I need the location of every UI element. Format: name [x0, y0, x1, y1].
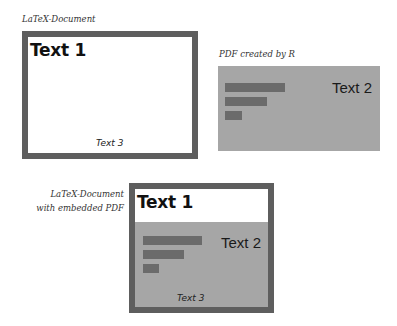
text-3-label: Text 3	[177, 294, 204, 303]
text-1-label: Text 1	[30, 42, 86, 59]
text-1-label: Text 1	[137, 194, 193, 211]
text-3-label: Text 3	[96, 139, 123, 148]
embedded-bar-3	[143, 264, 159, 273]
embedded-pdf-figure: Text 2 Text 3	[135, 222, 268, 313]
embedded-bar-1	[143, 236, 202, 245]
pdf-bar-3	[225, 111, 242, 120]
pdf-bar-2	[225, 97, 267, 106]
embedded-caption-line-1: LaTeX-Document	[50, 189, 124, 200]
embedded-bar-2	[143, 250, 184, 259]
text-2-label: Text 2	[221, 235, 261, 250]
pdf-bar-1	[225, 83, 285, 92]
latex-embedded-frame: Text 1 Text 2 Text 3	[129, 183, 274, 313]
embedded-caption-line-2: with embedded PDF	[36, 203, 124, 214]
latex-document-caption: LaTeX-Document	[22, 14, 96, 25]
text-2-label: Text 2	[332, 80, 372, 95]
pdf-caption: PDF created by R	[219, 49, 295, 60]
r-pdf-figure: Text 2	[218, 66, 380, 151]
latex-document-frame: Text 1 Text 3	[22, 31, 198, 159]
